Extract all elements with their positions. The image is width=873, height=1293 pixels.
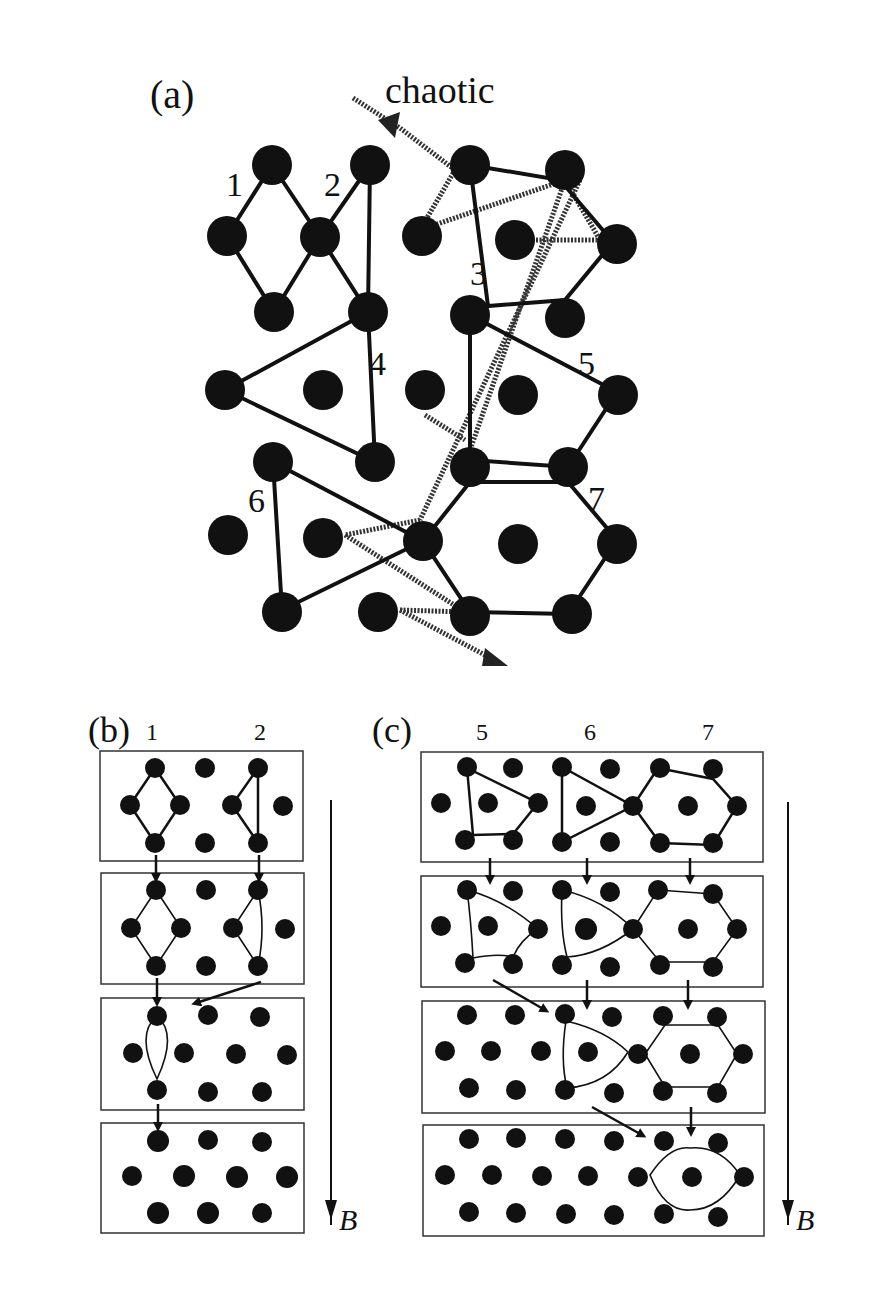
panel-a: (a) chaotic [150, 69, 638, 666]
cluster-label-7: 7 [588, 480, 605, 517]
cluster-label-4: 4 [369, 345, 386, 382]
panel-a-label: (a) [150, 72, 194, 117]
panel-b: (b) 1 2 [88, 710, 357, 1236]
figure-canvas: (a) chaotic [0, 0, 873, 1293]
column-label-6: 6 [584, 719, 596, 745]
vortex-particles-a [205, 145, 638, 636]
chaotic-label: chaotic [385, 69, 495, 111]
column-label-2: 2 [254, 719, 266, 745]
panel-c-label: (c) [372, 710, 412, 750]
field-label-c: B [796, 1203, 814, 1236]
field-label-b: B [339, 1203, 357, 1236]
column-label-5: 5 [476, 719, 488, 745]
column-label-1: 1 [146, 719, 158, 745]
panel-c: (c) 5 6 7 [372, 710, 814, 1236]
cluster-label-3: 3 [470, 255, 487, 292]
field-arrowhead-b [325, 1200, 337, 1220]
cluster-label-6: 6 [248, 482, 265, 519]
field-arrowhead-c [782, 1200, 794, 1220]
cluster-label-2: 2 [324, 166, 341, 203]
column-label-7: 7 [702, 719, 714, 745]
cluster-label-5: 5 [578, 345, 595, 382]
panel-b-label: (b) [88, 710, 130, 750]
cluster-label-1: 1 [226, 166, 243, 203]
chaotic-arrowhead-end [482, 648, 508, 666]
frames-b [100, 751, 304, 1233]
